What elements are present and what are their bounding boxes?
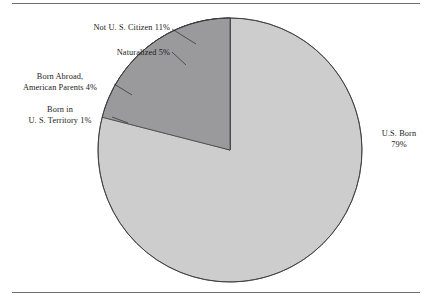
pie-label-born-in-us-territory-line-2: U. S. Territory 1%	[10, 115, 110, 126]
pie-chart-figure: Not U. S. Citizen 11% Naturalized 5% Bor…	[0, 0, 432, 303]
pie-label-born-in-us-territory-line-1: Born in	[10, 104, 110, 115]
pie-label-naturalized-line-1: Naturalized 5%	[54, 47, 170, 58]
pie-label-born-abroad: Born Abroad, American Parents 4%	[8, 71, 112, 93]
pie-label-born-in-us-territory: Born in U. S. Territory 1%	[10, 104, 110, 126]
pie-label-us-born: U.S. Born 79%	[370, 128, 428, 150]
pie-label-born-abroad-line-1: Born Abroad,	[8, 71, 112, 82]
pie-label-not-us-citizen-line-1: Not U. S. Citizen 11%	[54, 22, 170, 33]
pie-label-us-born-line-2: 79%	[370, 139, 428, 150]
pie-label-not-us-citizen: Not U. S. Citizen 11%	[54, 22, 170, 33]
pie-label-us-born-line-1: U.S. Born	[370, 128, 428, 139]
figure-bottom-rule	[12, 292, 420, 293]
pie-chart-graphic	[0, 0, 432, 303]
pie-label-born-abroad-line-2: American Parents 4%	[8, 82, 112, 93]
pie-label-naturalized: Naturalized 5%	[54, 47, 170, 58]
